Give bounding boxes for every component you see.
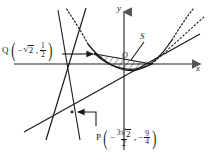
parabola-dotted-right <box>172 9 193 40</box>
p-x-radicand: 2 <box>125 129 131 139</box>
q-y-fraction: 1 2 <box>40 42 46 58</box>
q-y-denominator: 2 <box>40 50 46 59</box>
p-x-denominator: 2 <box>121 139 127 148</box>
p-y-fraction: 9 4 <box>144 130 150 146</box>
paren-open-q: ( <box>11 46 15 54</box>
paren-close-q: ) <box>48 46 52 54</box>
p-y-numerator: 9 <box>144 130 150 138</box>
p-y-negative: − <box>138 133 143 142</box>
point-p-marker <box>71 111 74 114</box>
p-x-fraction: 3√2 2 <box>116 128 132 147</box>
q-x-radical-group: √2 <box>23 45 33 56</box>
p-x-numerator: 3√2 <box>116 128 132 139</box>
tangent-line-secondary <box>58 10 80 140</box>
p-comma: , <box>133 133 137 142</box>
figure-canvas: Q ( − √2 , 1 2 ) P ( − 3√2 2 , − 9 4 ) S <box>0 0 212 162</box>
point-label-p: P ( − 3√2 2 , − 9 4 ) <box>96 128 158 147</box>
paren-close-p: ) <box>152 134 156 142</box>
p-x-radical-group: √2 <box>121 128 131 139</box>
q-x-negative: − <box>17 46 22 55</box>
p-y-denominator: 4 <box>144 137 150 146</box>
point-q-name: Q <box>2 46 9 55</box>
paren-open-p: ( <box>103 134 107 142</box>
leader-p <box>78 112 96 126</box>
q-y-numerator: 1 <box>40 42 46 50</box>
point-label-q: Q ( − √2 , 1 2 ) <box>2 42 53 58</box>
point-q-marker <box>94 53 97 56</box>
origin-label: O <box>122 52 128 60</box>
axis-label-x: x <box>196 64 200 73</box>
tangent-line-through-q <box>46 8 86 140</box>
region-label-s: S <box>140 32 145 41</box>
leader-s <box>131 42 144 60</box>
q-x-radicand: 2 <box>28 45 34 55</box>
q-comma: , <box>35 46 39 55</box>
point-p-name: P <box>96 133 101 142</box>
p-x-negative: − <box>110 133 115 142</box>
axis-label-y: y <box>117 4 121 13</box>
